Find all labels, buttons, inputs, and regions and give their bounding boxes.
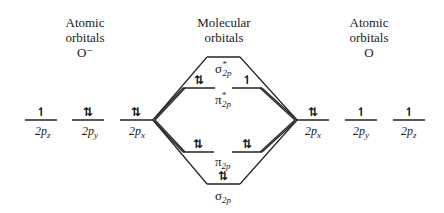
ao-labels: 2pz 2py 2px 2px 2py 2pz xyxy=(35,124,417,140)
electron-left-2px: ⇅ xyxy=(131,105,141,119)
electron-right-2pz: ↿ xyxy=(404,105,414,119)
label-sigma-star: σ*2p xyxy=(215,59,232,78)
label-sigma: σ2p xyxy=(215,188,232,205)
label-pi-star: π*2p xyxy=(215,90,232,109)
label-left-2px: 2px xyxy=(129,124,145,140)
electron-left-2pz: ↿ xyxy=(36,105,46,119)
electron-pi-left: ⇅ xyxy=(193,137,203,151)
electron-sigma: ⇅ xyxy=(218,169,228,183)
label-left-2py: 2py xyxy=(82,124,98,140)
label-left-2pz: 2pz xyxy=(35,124,51,140)
mo-labels: σ*2p π*2p π2p σ2p xyxy=(215,59,232,205)
electron-pi-right: ⇅ xyxy=(242,137,252,151)
label-right-2pz: 2pz xyxy=(401,124,417,140)
label-pi: π2p xyxy=(215,154,231,171)
mo-diagram: ↿ ⇅ ⇅ ⇅ ↿ ↿ ⇅ ↿ ⇅ ⇅ ⇅ 2pz 2py 2px 2px 2p… xyxy=(0,0,444,213)
label-right-2py: 2py xyxy=(353,124,369,140)
electron-pi-star-left: ⇅ xyxy=(194,73,204,87)
label-right-2px: 2px xyxy=(305,124,321,140)
electron-right-2py: ↿ xyxy=(356,105,366,119)
electron-left-2py: ⇅ xyxy=(83,105,93,119)
electron-pi-star-right: ↿ xyxy=(242,73,252,87)
electron-right-2px: ⇅ xyxy=(308,105,318,119)
